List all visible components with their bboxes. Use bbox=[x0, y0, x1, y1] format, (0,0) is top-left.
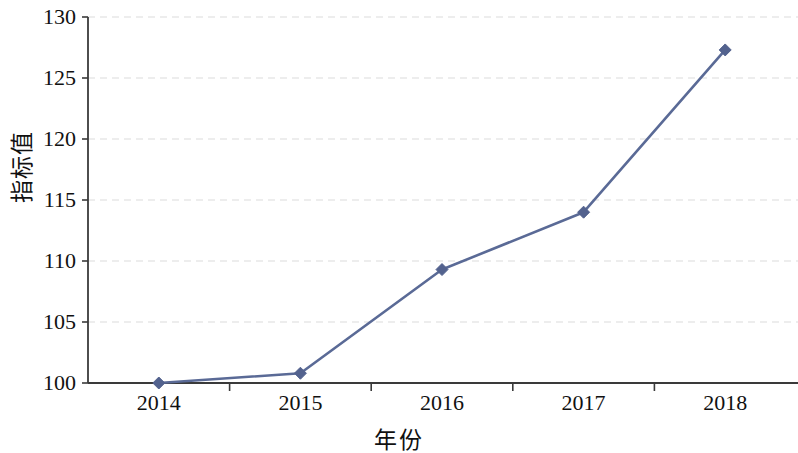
x-axis-title: 年份 bbox=[0, 421, 798, 453]
line-chart: 100105110115120125130 201420152016201720… bbox=[0, 0, 798, 453]
x-axis-tick-label: 2017 bbox=[539, 392, 629, 414]
y-axis-tick-label: 110 bbox=[20, 250, 76, 272]
data-series-line bbox=[159, 50, 725, 383]
gridlines bbox=[88, 17, 798, 322]
y-axis-tick-label: 125 bbox=[20, 67, 76, 89]
y-axis-tick-label: 130 bbox=[20, 6, 76, 28]
y-axis-title: 指标值 bbox=[3, 112, 37, 222]
x-axis-tick-label: 2016 bbox=[397, 392, 487, 414]
y-axis-tick-label: 100 bbox=[20, 372, 76, 394]
chart-plot-area bbox=[0, 0, 798, 453]
data-point-markers bbox=[153, 44, 731, 389]
y-axis-tick-labels: 100105110115120125130 bbox=[18, 0, 76, 453]
x-axis-tick-label: 2014 bbox=[114, 392, 204, 414]
x-axis-tick-label: 2018 bbox=[680, 392, 770, 414]
data-point-marker bbox=[153, 377, 165, 389]
y-axis-tick-label: 105 bbox=[20, 311, 76, 333]
x-axis-tick-label: 2015 bbox=[255, 392, 345, 414]
